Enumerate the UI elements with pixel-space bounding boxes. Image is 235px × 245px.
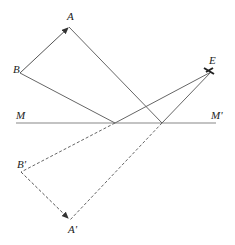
label-e: E xyxy=(208,54,216,66)
label-m-prime: M' xyxy=(210,109,223,121)
virtual-ray-b xyxy=(21,123,115,172)
image-arrow-ba xyxy=(21,172,68,218)
label-a-prime: A' xyxy=(67,223,78,235)
ray-a-incident xyxy=(69,27,162,123)
label-m: M xyxy=(15,109,26,121)
object-arrow-ba xyxy=(20,28,68,73)
ray-b-incident xyxy=(20,73,115,123)
reflection-diagram: A B E M M' B' A' xyxy=(0,0,235,245)
label-b-prime: B' xyxy=(17,158,27,170)
ray-a-reflected xyxy=(162,72,211,123)
label-a: A xyxy=(66,10,74,22)
virtual-ray-a xyxy=(70,123,162,220)
label-b: B xyxy=(13,63,20,75)
ray-b-reflected xyxy=(115,72,211,123)
